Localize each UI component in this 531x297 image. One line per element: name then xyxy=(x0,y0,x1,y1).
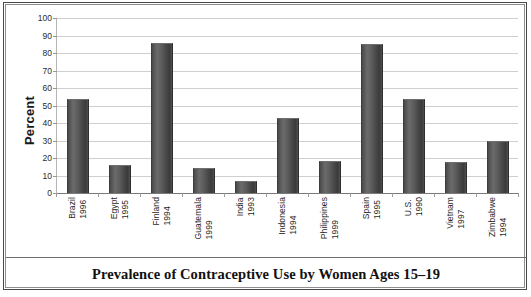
source-note xyxy=(4,289,424,297)
x-label-year: 1994 xyxy=(162,197,172,226)
x-label-country: Egypt xyxy=(109,197,119,219)
bar-slot xyxy=(351,18,393,193)
x-label-year: 1999 xyxy=(204,197,214,239)
y-tick-label: 40 xyxy=(26,119,52,128)
y-tick-label: 50 xyxy=(26,101,52,110)
x-label-country: Brazil xyxy=(67,197,77,219)
plot-area xyxy=(56,18,518,193)
bar-chart: Percent 1009080706050403020100 Brazil199… xyxy=(6,5,526,257)
x-label-country: India xyxy=(235,197,245,216)
y-tick-label: 90 xyxy=(26,31,52,40)
x-label-year: 1994 xyxy=(288,197,298,235)
bar[interactable] xyxy=(319,161,341,193)
bar[interactable] xyxy=(445,162,467,193)
y-tick-label: 80 xyxy=(26,49,52,58)
bar[interactable] xyxy=(67,99,89,194)
bar-slot xyxy=(309,18,351,193)
x-label-country: U.S. xyxy=(403,197,413,216)
bar-slot xyxy=(393,18,435,193)
bar-slot xyxy=(477,18,519,193)
bar-slot xyxy=(141,18,183,193)
bar-slot xyxy=(183,18,225,193)
x-label-year: 1995 xyxy=(372,197,382,219)
x-label-year: 1990 xyxy=(414,197,424,216)
y-tick-label: 60 xyxy=(26,84,52,93)
x-label-country: Zimbabwe xyxy=(487,197,497,237)
x-label-year: 1995 xyxy=(120,197,130,219)
figure-inner-border: Percent 1009080706050403020100 Brazil199… xyxy=(5,4,525,288)
bar-series xyxy=(57,18,518,193)
bar-slot xyxy=(435,18,477,193)
x-axis-category-labels: Brazil1996Egypt1995Finland1994Guatemala1… xyxy=(56,197,518,257)
bar[interactable] xyxy=(487,141,509,194)
y-tick-label: 70 xyxy=(26,66,52,75)
chart-caption: Prevalence of Contraceptive Use by Women… xyxy=(6,258,526,290)
x-label-country: Guatemala xyxy=(193,197,203,239)
bar-slot xyxy=(57,18,99,193)
x-label-year: 1997 xyxy=(456,197,466,229)
x-label-country: Finland xyxy=(151,197,161,226)
bar[interactable] xyxy=(193,168,215,193)
y-tick-label: 20 xyxy=(26,154,52,163)
x-label-year: 1999 xyxy=(330,197,340,239)
bar-slot xyxy=(99,18,141,193)
figure-frame: Percent 1009080706050403020100 Brazil199… xyxy=(3,2,527,290)
bar-slot xyxy=(225,18,267,193)
x-label-year: 1996 xyxy=(78,197,88,219)
bar[interactable] xyxy=(361,44,383,193)
bar[interactable] xyxy=(277,118,299,193)
x-label-year: 1994 xyxy=(498,197,508,237)
x-label-year: 1993 xyxy=(246,197,256,216)
bar-slot xyxy=(267,18,309,193)
y-tick-label: 30 xyxy=(26,136,52,145)
bar[interactable] xyxy=(235,181,257,193)
y-tick-label: 0 xyxy=(26,189,52,198)
x-label-country: Indonesia xyxy=(277,197,287,235)
y-tick-label: 10 xyxy=(26,171,52,180)
y-tick-label: 100 xyxy=(26,14,52,23)
bar[interactable] xyxy=(109,165,131,193)
bar[interactable] xyxy=(151,43,173,194)
y-axis-tick-labels: 1009080706050403020100 xyxy=(26,18,52,193)
x-label-country: Spain xyxy=(361,197,371,219)
bar[interactable] xyxy=(403,99,425,194)
x-label-country: Philippines xyxy=(319,197,329,239)
x-axis-label: Zimbabwe1994 xyxy=(467,197,527,255)
x-label-country: Vietnam xyxy=(445,197,455,229)
